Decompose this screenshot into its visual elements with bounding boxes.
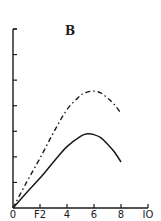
x-tick-label: F2 <box>34 209 46 220</box>
chart: B 0F2468IO <box>0 0 161 221</box>
x-tick-label: 0 <box>10 209 16 220</box>
series-solid-line <box>13 134 121 208</box>
axes <box>13 29 148 208</box>
panel-label: B <box>65 24 75 38</box>
x-tick-label: IO <box>143 209 154 220</box>
x-ticks: 0F2468IO <box>10 204 154 220</box>
x-tick-label: 8 <box>118 209 124 220</box>
x-tick-label: 4 <box>64 209 70 220</box>
series-layer <box>13 91 121 208</box>
x-tick-label: 6 <box>91 209 97 220</box>
